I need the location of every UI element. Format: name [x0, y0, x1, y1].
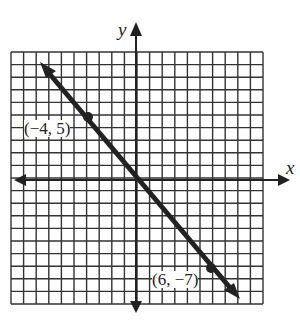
coordinate-plane	[0, 0, 300, 322]
point-6-neg7	[206, 263, 216, 273]
point-label-1: (−4, 5)	[24, 120, 70, 137]
x-axis-label: x	[286, 157, 294, 179]
point-neg4-5	[83, 112, 93, 122]
x-axis	[14, 174, 290, 186]
point-label-2: (6, −7)	[152, 271, 198, 288]
y-axis-label: y	[118, 19, 126, 41]
